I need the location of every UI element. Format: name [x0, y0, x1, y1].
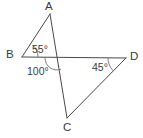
- angle-label-100: 100°: [27, 66, 49, 77]
- vertex-label-A: A: [45, 1, 53, 13]
- figure-canvas: [0, 0, 143, 138]
- angle-label-45: 45°: [92, 62, 108, 73]
- vertex-label-D: D: [130, 51, 138, 63]
- vertex-label-B: B: [6, 49, 14, 61]
- geometry-figure: A B C D 55° 100° 45°: [0, 0, 143, 138]
- segment-BD: [22, 57, 126, 58]
- vertex-label-C: C: [63, 122, 71, 134]
- segment-AC: [50, 14, 67, 118]
- angle-label-55: 55°: [32, 44, 48, 55]
- angle-arc-D: [108, 58, 113, 71]
